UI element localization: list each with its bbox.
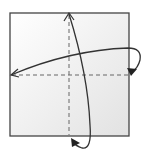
solid-arrowhead-icon	[71, 138, 80, 147]
fold-diagram	[0, 0, 147, 159]
